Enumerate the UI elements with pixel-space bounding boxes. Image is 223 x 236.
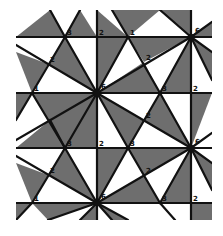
vertex-label: 2 [50, 56, 55, 64]
hub-label: 6 [101, 83, 106, 91]
tiling-pattern: 6666 32211232233221232 [0, 0, 223, 236]
vertex-label: 3 [162, 195, 167, 203]
vertex-label: 2 [146, 112, 151, 120]
vertex-label: 3 [130, 140, 135, 148]
vertex-label: 2 [193, 195, 198, 203]
hub-point [94, 90, 100, 96]
shaded-triangle [48, 37, 97, 93]
vertex-label: 3 [162, 85, 167, 93]
vertex-label: 3 [67, 29, 72, 37]
vertex-label: 1 [130, 29, 135, 37]
vertex-label: 2 [50, 167, 55, 175]
hub-point [188, 34, 194, 40]
vertex-label: 1 [34, 85, 39, 93]
hub-point [94, 200, 100, 206]
vertex-label: 2 [99, 140, 104, 148]
shaded-triangle [48, 148, 97, 203]
hub-label: 6 [195, 27, 200, 35]
vertex-label: 2 [146, 54, 151, 62]
hub-label: 6 [195, 138, 200, 146]
edge-line [160, 203, 175, 220]
pattern-area: 6666 32211232233221232 [0, 10, 212, 220]
vertex-label: 2 [193, 85, 198, 93]
vertex-label: 2 [146, 167, 151, 175]
hub-point [188, 145, 194, 151]
hub-point [0, 34, 6, 40]
vertex-label: 1 [34, 195, 39, 203]
hub-point [0, 145, 6, 151]
vertex-label: 2 [99, 29, 104, 37]
shaded-triangle [191, 203, 212, 220]
vertex-label: 3 [67, 140, 72, 148]
shaded-triangle [144, 93, 191, 148]
hub-label: 6 [101, 193, 106, 201]
shaded-triangle [97, 93, 144, 148]
